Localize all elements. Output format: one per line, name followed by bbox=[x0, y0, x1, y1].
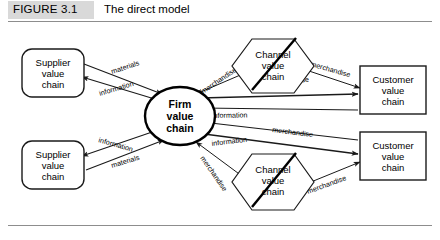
node-label-line1: Supplier bbox=[36, 57, 71, 68]
node-firm[interactable]: Firm value chain bbox=[145, 87, 215, 145]
node-customer-top[interactable]: Customer value chain bbox=[360, 66, 426, 114]
node-channel-top[interactable]: Channel value chain bbox=[232, 38, 314, 93]
edge-firm-to-supplier-bottom: information bbox=[82, 130, 158, 156]
figure-tag: FIGURE 3.1 bbox=[13, 3, 78, 15]
edge-label-merchandise: merchandise bbox=[272, 125, 314, 139]
figure-page: FIGURE 3.1 The direct model information … bbox=[0, 0, 440, 240]
edge-channel-top-to-customer-top: merchandise bbox=[306, 59, 360, 88]
node-label-line2: value bbox=[382, 151, 405, 162]
node-label-line3: chain bbox=[382, 96, 405, 107]
edge-label-merchandise: merchandise bbox=[198, 154, 229, 193]
edge-channel-bottom-to-customer-bottom: merchandise bbox=[306, 162, 360, 196]
edge-label-merchandise: merchandise bbox=[199, 65, 238, 95]
figure-header: FIGURE 3.1 The direct model bbox=[0, 0, 440, 22]
edge-customer-top-to-firm: information bbox=[202, 108, 358, 120]
node-label-line2: value bbox=[42, 160, 65, 171]
node-label-line1: Firm bbox=[169, 98, 192, 110]
node-label-line2: value bbox=[42, 68, 65, 79]
edge-label-materials: materials bbox=[110, 58, 141, 76]
edge-label-information: information bbox=[97, 135, 134, 153]
node-label-line3: chain bbox=[382, 162, 405, 173]
node-label-line1: Supplier bbox=[36, 149, 71, 160]
node-label-line2: value bbox=[167, 110, 194, 122]
node-label-line3: chain bbox=[42, 171, 65, 182]
edge-label-information: information bbox=[212, 110, 248, 120]
edge-label-merchandise: merchandise bbox=[309, 59, 351, 79]
node-customer-bottom[interactable]: Customer value chain bbox=[360, 132, 426, 180]
node-label-line1: Customer bbox=[372, 140, 413, 151]
node-label-line3: chain bbox=[166, 122, 193, 134]
diagram-canvas: information materials information materi… bbox=[0, 22, 440, 222]
node-label-line2: value bbox=[382, 85, 405, 96]
node-label-line3: chain bbox=[42, 79, 65, 90]
node-supplier-bottom[interactable]: Supplier value chain bbox=[22, 141, 84, 189]
footer-divider bbox=[8, 225, 432, 226]
node-channel-bottom[interactable]: Channel value chain bbox=[232, 153, 314, 210]
figure-title: The direct model bbox=[104, 3, 190, 15]
node-label-line1: Customer bbox=[372, 74, 413, 85]
node-supplier-top[interactable]: Supplier value chain bbox=[22, 49, 84, 97]
node-label-line3: chain bbox=[262, 71, 285, 82]
